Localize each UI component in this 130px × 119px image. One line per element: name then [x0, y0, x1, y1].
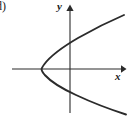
graph-svg: [0, 0, 130, 119]
figure-container: d) y x: [0, 0, 130, 119]
x-axis-arrow-icon: [121, 65, 127, 73]
y-axis-label: y: [57, 1, 62, 12]
y-axis-arrow-icon: [66, 5, 73, 12]
parabola-curve: [42, 15, 126, 115]
x-axis-label: x: [115, 71, 121, 82]
